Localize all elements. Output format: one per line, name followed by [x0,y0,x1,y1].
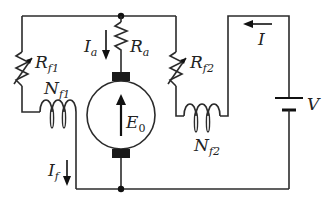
ia-arrowhead-icon [102,50,110,60]
rf2-variable-resistor [168,52,186,86]
nf2-coil [184,104,220,132]
bottom-node [118,186,124,192]
battery-v [275,98,303,110]
if-arrowhead-icon [63,176,71,186]
label-nf2: Nf2 [193,135,220,158]
nf1-coil [40,100,76,128]
bottom-brush [112,149,130,158]
circuit-diagram: Ia Ra Rf1 Rf2 Nf1 Nf2 E0 If I V [0,0,334,211]
label-i: I [257,29,265,49]
label-if: If [47,160,61,183]
i-arrowhead-icon [243,20,253,28]
label-rf1: Rf1 [34,52,59,75]
label-v: V [307,94,321,114]
label-ra: Ra [129,36,149,59]
label-ia: Ia [83,36,97,59]
label-nf1: Nf1 [43,78,70,101]
ra-resistor [115,22,127,72]
e0-arrowhead-icon [116,94,126,105]
label-e0: E0 [125,112,145,135]
rf1-variable-resistor [14,52,32,86]
nf2-to-supply-wire [220,16,289,116]
label-rf2: Rf2 [189,52,214,75]
top-brush [112,72,130,81]
